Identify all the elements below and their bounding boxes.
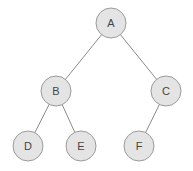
tree-node-c[interactable]: C — [151, 76, 182, 107]
node-label: C — [162, 86, 170, 97]
tree-node-e[interactable]: E — [66, 131, 97, 162]
node-label: A — [107, 18, 114, 29]
tree-diagram: A B C D E F — [0, 0, 193, 171]
node-label: E — [77, 141, 84, 152]
node-label: D — [24, 141, 32, 152]
tree-node-b[interactable]: B — [41, 76, 72, 107]
tree-node-a[interactable]: A — [96, 8, 127, 39]
node-label: B — [52, 86, 59, 97]
tree-node-f[interactable]: F — [124, 131, 155, 162]
node-label: F — [136, 141, 143, 152]
tree-node-d[interactable]: D — [13, 131, 44, 162]
